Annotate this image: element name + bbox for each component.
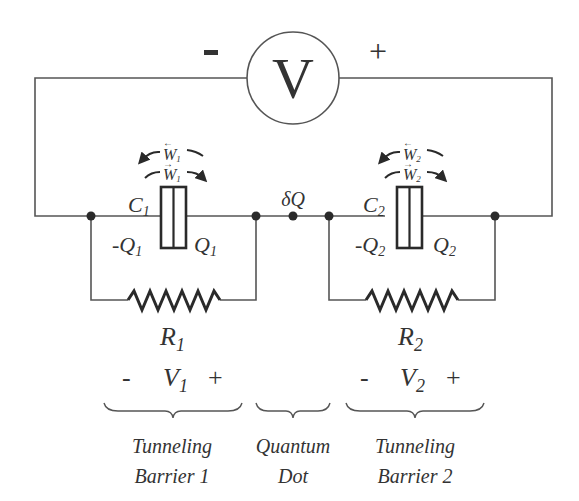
- region-1-line2: Barrier 1: [135, 465, 210, 487]
- region-1-line1: Tunneling: [132, 435, 212, 458]
- back-arrow-2-icon: [382, 152, 400, 160]
- node-quantum-dot: [289, 212, 298, 221]
- node-right: [491, 212, 500, 221]
- charge-right-1: Q1: [194, 232, 217, 259]
- charge-right-2: Q2: [433, 232, 456, 259]
- brace-barrier-1-icon: [104, 403, 242, 418]
- region-3-line2: Barrier 2: [378, 465, 453, 487]
- tunnel-junction-1: C1 -Q1 Q1 W1 ← W1 → R1 - V1 +: [91, 137, 256, 396]
- region-braces: [104, 403, 484, 418]
- resistor-2-icon: [366, 291, 458, 310]
- capacitor-1-label: C1: [128, 192, 150, 219]
- region-labels: Tunneling Barrier 1 Quantum Dot Tunnelin…: [132, 435, 455, 487]
- tunnel-junction-2: C2 -Q2 Q2 W2 ← W2 → R2 - V2 +: [329, 137, 495, 396]
- work-arrows-2: W2 ← W2 →: [382, 137, 443, 184]
- circuit-diagram: V + C1 -Q1 Q1 W1 ← W1 → R1 - V1 +: [0, 0, 579, 501]
- brace-quantum-dot-icon: [256, 403, 330, 418]
- dot-charge-label: δQ: [281, 188, 305, 210]
- right-arrow-accent-icon: →: [403, 158, 413, 169]
- node-dot-left: [252, 212, 261, 221]
- resistor-1-icon: [128, 291, 220, 310]
- node-dot-right: [325, 212, 334, 221]
- region-2-line1: Quantum: [256, 435, 330, 457]
- back-arrow-1-icon: [142, 152, 160, 160]
- charge-left-1: -Q1: [112, 232, 142, 259]
- v1-plus: +: [208, 363, 223, 392]
- region-2-line2: Dot: [277, 465, 308, 487]
- brace-barrier-2-icon: [346, 403, 484, 418]
- source-minus-sign: [204, 50, 218, 55]
- node-left: [87, 212, 96, 221]
- fwd-arrow-1-icon: [187, 172, 203, 178]
- left-arrow-accent-icon: ←: [403, 137, 413, 148]
- right-arrow-accent-icon: →: [163, 158, 173, 169]
- resistor-1-label: R1: [159, 322, 185, 355]
- fwd-arrow-2-icon: [427, 172, 443, 178]
- left-arrow-accent-icon: ←: [163, 137, 173, 148]
- resistor-2-label: R2: [397, 322, 423, 355]
- v1-minus: -: [122, 363, 131, 392]
- v2-plus: +: [446, 363, 461, 392]
- source-plus-sign: +: [369, 33, 387, 69]
- v2-label: V2: [400, 363, 425, 396]
- work-arrows-1: W1 ← W1 →: [142, 137, 203, 184]
- v1-label: V1: [163, 363, 188, 396]
- region-3-line1: Tunneling: [375, 435, 455, 458]
- source-symbol: V: [272, 46, 314, 111]
- v2-minus: -: [360, 363, 369, 392]
- charge-left-2: -Q2: [355, 232, 385, 259]
- capacitor-2-label: C2: [363, 192, 385, 219]
